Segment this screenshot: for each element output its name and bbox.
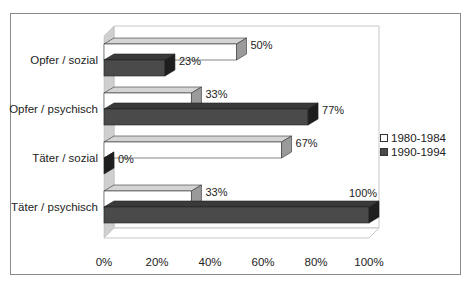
bar bbox=[104, 109, 308, 125]
category-label: Opfer / psychisch bbox=[9, 103, 98, 115]
category-label: Täter / sozial bbox=[32, 152, 98, 164]
x-tick-label: 0% bbox=[96, 256, 113, 268]
value-label: 67% bbox=[296, 137, 318, 149]
bar bbox=[104, 207, 369, 223]
value-label: 50% bbox=[251, 39, 273, 51]
category-label: Täter / psychisch bbox=[11, 201, 98, 213]
bar-top-face bbox=[104, 87, 201, 93]
floor bbox=[104, 228, 379, 238]
bar-top-face bbox=[104, 185, 201, 191]
legend-swatch-dark-icon bbox=[380, 148, 388, 156]
x-tick-label: 60% bbox=[251, 256, 274, 268]
value-label: 100% bbox=[349, 187, 377, 199]
legend-item-1980-1984: 1980-1984 bbox=[380, 131, 446, 145]
legend-label: 1990-1994 bbox=[391, 146, 446, 158]
bar-top-face bbox=[104, 38, 247, 44]
x-tick-label: 100% bbox=[354, 256, 383, 268]
x-tick-label: 40% bbox=[198, 256, 221, 268]
value-label: 0% bbox=[118, 153, 134, 165]
bar-top-face bbox=[104, 136, 292, 142]
value-label: 77% bbox=[322, 104, 344, 116]
value-label: 33% bbox=[205, 186, 227, 198]
x-tick-label: 80% bbox=[304, 256, 327, 268]
bar-top-face bbox=[104, 201, 379, 207]
bar-top-face bbox=[104, 103, 318, 109]
bar-top-face bbox=[104, 54, 175, 60]
legend-swatch-white-icon bbox=[380, 134, 388, 142]
legend-label: 1980-1984 bbox=[391, 132, 446, 144]
value-label: 33% bbox=[205, 88, 227, 100]
value-label: 23% bbox=[179, 55, 201, 67]
x-tick-label: 20% bbox=[145, 256, 168, 268]
category-label: Opfer / sozial bbox=[30, 54, 98, 66]
legend: 1980-1984 1990-1994 bbox=[380, 131, 446, 159]
bar bbox=[104, 60, 165, 76]
legend-item-1990-1994: 1990-1994 bbox=[380, 145, 446, 159]
